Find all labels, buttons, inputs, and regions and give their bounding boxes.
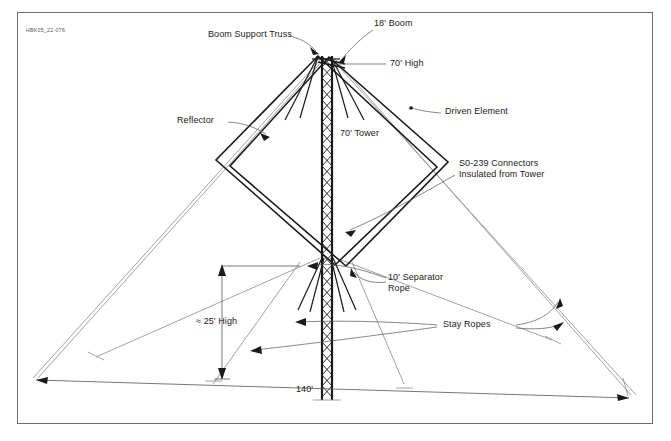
ground-anchors [88, 336, 628, 400]
anchor-mark-right-mid [545, 336, 561, 344]
truss-member-left-1 [285, 56, 318, 120]
stay-rope-mid-left [96, 258, 320, 357]
leader-connectors [350, 175, 455, 230]
label-span-140: 140' [296, 384, 313, 395]
label-stay-ropes: Stay Ropes [443, 319, 491, 330]
leader-stay-left-2 [255, 327, 437, 350]
label-height-25: ≈ 25' High [196, 316, 237, 327]
leader-arrow-stay-r2 [553, 322, 564, 331]
label-tower: 70' Tower [340, 128, 379, 139]
diagram-page: HBK05_22-076 [0, 0, 671, 441]
lattice-zig [322, 56, 332, 397]
label-separator-line1: 10' Separator [388, 272, 443, 283]
label-boom: 18' Boom [374, 18, 413, 29]
span-arrow-right [617, 394, 629, 401]
leader-arrow-connectors [345, 230, 356, 237]
leader-arrow-truss [310, 47, 319, 55]
leader-driven-element [412, 108, 441, 113]
span-arrow-left [36, 377, 48, 384]
label-boom-support-truss: Boom Support Truss [208, 29, 292, 40]
callout-leaders [228, 30, 564, 354]
label-driven-element: Driven Element [445, 106, 508, 117]
leader-arrow-sep-right [350, 268, 357, 278]
label-connectors-line1: S0-239 Connectors [459, 158, 538, 169]
driven-element [230, 57, 448, 266]
stay-ropes-group [33, 58, 636, 395]
leader-arrow-stay-l2 [250, 346, 262, 354]
label-70-high: 70' High [390, 58, 424, 69]
label-separator-line2: Rope [388, 283, 410, 294]
leader-arrow-stay-l1 [295, 318, 306, 326]
label-reflector: Reflector [177, 115, 214, 126]
stay-rope-left-outer [33, 58, 322, 378]
driven-element-loop [230, 57, 448, 266]
height-arrow-bottom [218, 368, 226, 380]
lower-truss-r1 [333, 258, 356, 310]
leader-stay-left-1 [300, 321, 437, 325]
tower-lattice-bracing [322, 56, 332, 397]
leader-arrow-reflector [260, 133, 270, 141]
tower-structure [322, 56, 332, 400]
antenna-diagram-svg [0, 0, 671, 441]
anchor-mark-left-mid [88, 352, 104, 360]
leader-dot-driven [409, 106, 413, 110]
label-connectors-line2: Insulated from Tower [459, 169, 544, 180]
